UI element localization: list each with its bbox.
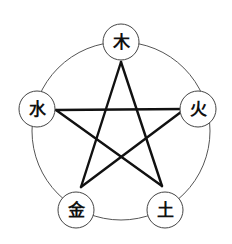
node-fire: 火 bbox=[180, 91, 216, 127]
node-label-earth: 土 bbox=[157, 200, 174, 220]
node-label-water: 水 bbox=[29, 99, 47, 119]
outer-cycle-circle bbox=[32, 42, 210, 220]
node-label-metal: 金 bbox=[67, 200, 86, 220]
star-line-metal-wood bbox=[81, 62, 121, 187]
star-line-water-fire bbox=[56, 109, 185, 110]
star-line-earth-water bbox=[56, 110, 162, 186]
node-label-fire: 火 bbox=[190, 99, 208, 119]
star-line-fire-metal bbox=[81, 109, 185, 187]
star-lines bbox=[56, 62, 185, 187]
node-water: 水 bbox=[19, 91, 55, 127]
node-label-wood: 木 bbox=[112, 32, 131, 52]
node-wood: 木 bbox=[103, 24, 139, 60]
node-metal: 金 bbox=[58, 192, 94, 228]
node-earth: 土 bbox=[147, 192, 183, 228]
five-elements-diagram: 木 火 土 金 水 bbox=[0, 0, 232, 244]
star-line-wood-earth bbox=[121, 62, 162, 186]
